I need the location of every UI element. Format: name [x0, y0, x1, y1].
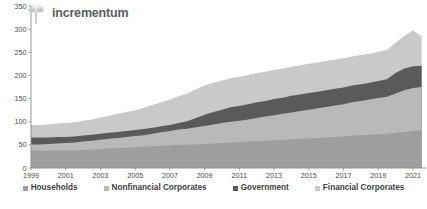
x-tick-label: 1999: [23, 171, 39, 180]
y-tick-label: 150: [15, 94, 27, 103]
legend-item[interactable]: Financial Corporates: [315, 184, 404, 192]
legend-label: Nonfinancial Corporates: [112, 184, 207, 192]
x-tick-label: 2011: [232, 171, 247, 180]
y-tick-label: 50: [19, 140, 27, 149]
x-tick-label: 2021: [405, 171, 421, 180]
chart-container: incrementum 050100150200250300350 199920…: [0, 0, 427, 209]
legend-swatch-icon: [315, 186, 320, 191]
y-tick-label: 200: [15, 71, 27, 80]
x-tick-label: 2019: [370, 171, 386, 180]
x-tick-label: 2017: [336, 171, 352, 180]
x-tick-label: 2013: [266, 171, 282, 180]
legend-label: Financial Corporates: [323, 184, 404, 192]
y-axis-tick-labels: 050100150200250300350: [15, 2, 27, 173]
stacked-area-plot: 050100150200250300350 199920012003200520…: [0, 0, 427, 209]
brand-name: incrementum: [52, 7, 128, 20]
legend-item[interactable]: Government: [233, 184, 289, 192]
legend-swatch-icon: [233, 186, 238, 191]
y-tick-label: 100: [15, 117, 27, 126]
legend-label: Households: [31, 184, 78, 192]
area-series-group: [31, 31, 422, 168]
chart-legend: HouseholdsNonfinancial CorporatesGovernm…: [0, 184, 427, 192]
tree-icon: [26, 3, 46, 24]
legend-swatch-icon: [23, 186, 28, 191]
x-axis-tick-labels: 1999200120032005200720092011201320152017…: [23, 171, 421, 180]
y-tick-label: 300: [15, 25, 27, 34]
y-tick-label: 350: [15, 2, 27, 11]
legend-item[interactable]: Nonfinancial Corporates: [104, 184, 207, 192]
x-tick-label: 2009: [197, 171, 213, 180]
x-tick-label: 2005: [127, 171, 143, 180]
x-tick-label: 2003: [92, 171, 108, 180]
legend-swatch-icon: [104, 186, 109, 191]
x-tick-label: 2015: [301, 171, 317, 180]
legend-label: Government: [241, 184, 289, 192]
y-tick-label: 250: [15, 48, 27, 57]
x-tick-label: 2007: [162, 171, 178, 180]
brand-logo: incrementum: [26, 3, 128, 24]
legend-item[interactable]: Households: [23, 184, 78, 192]
x-tick-label: 2001: [58, 171, 74, 180]
